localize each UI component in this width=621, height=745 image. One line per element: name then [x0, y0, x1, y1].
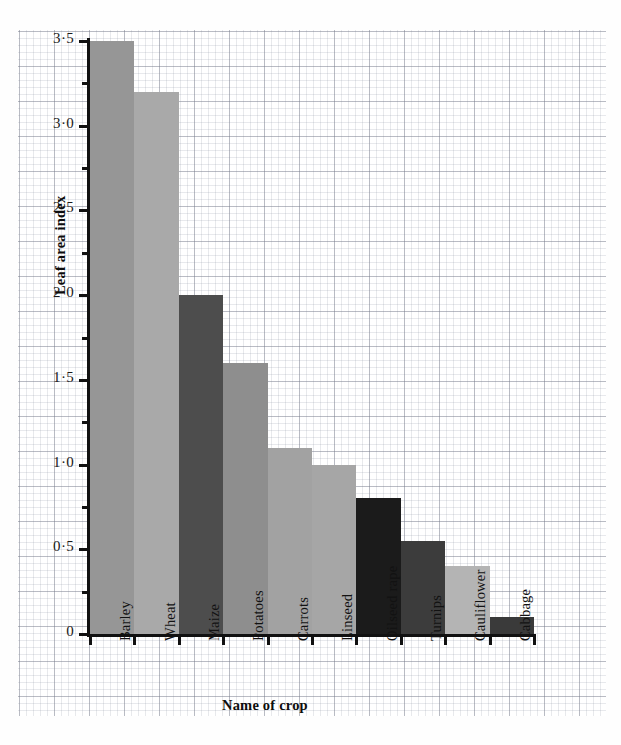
x-axis-title: Name of crop: [222, 697, 308, 714]
y-axis-title: Leaf area index: [52, 196, 69, 295]
x-label-barley: Barley: [117, 521, 134, 641]
x-label-oilseed-rape: Oilseed rape: [384, 521, 401, 641]
x-label-linseed: Linseed: [339, 521, 356, 641]
x-label-cabbage: Cabbage: [517, 521, 534, 641]
x-tick: [489, 634, 492, 645]
x-label-potatoes: Potatoes: [250, 521, 267, 641]
x-label-wheat: Wheat: [162, 521, 179, 641]
y-tick-label: 3·5: [53, 30, 74, 47]
y-tick-major: 1·5: [79, 379, 90, 382]
x-tick: [89, 634, 92, 645]
y-tick-minor: [82, 252, 90, 255]
y-tick-minor: [82, 167, 90, 170]
y-tick-minor: [82, 591, 90, 594]
y-tick-major: 2·5: [79, 209, 90, 212]
y-tick-major: 0·5: [79, 548, 90, 551]
x-label-cauliflower: Cauliflower: [472, 521, 489, 641]
y-tick-major: 3·0: [79, 125, 90, 128]
y-tick-label: 1·5: [53, 369, 74, 386]
y-tick-minor: [82, 337, 90, 340]
y-tick-major: 3·5: [79, 40, 90, 43]
y-tick-major: 2·0: [79, 294, 90, 297]
y-tick-label: 1·0: [53, 454, 74, 471]
y-tick-label: 0: [66, 623, 74, 640]
y-tick-minor: [82, 82, 90, 85]
y-tick-minor: [82, 421, 90, 424]
y-tick-label: 0·5: [53, 538, 74, 555]
x-tick: [267, 634, 270, 645]
plot-area: 00·51·01·52·02·53·03·5 BarleyWheatMaizeP…: [90, 41, 534, 634]
chart-page: 00·51·01·52·02·53·03·5 BarleyWheatMaizeP…: [0, 0, 621, 745]
bar-series: [90, 41, 534, 634]
y-tick-major: 1·0: [79, 464, 90, 467]
x-label-carrots: Carrots: [295, 521, 312, 641]
x-label-turnips: Turnips: [428, 521, 445, 641]
y-tick-label: 3·0: [53, 115, 74, 132]
x-label-maize: Maize: [206, 521, 223, 641]
y-tick-minor: [82, 506, 90, 509]
